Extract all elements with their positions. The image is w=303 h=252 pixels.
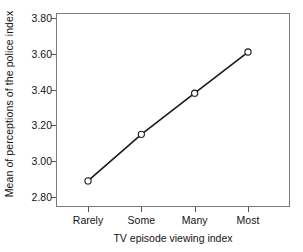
x-axis-tick-mark xyxy=(195,207,196,212)
y-axis-tick-labels: 2.803.003.203.403.603.80 xyxy=(16,0,52,252)
x-axis-tick-mark xyxy=(88,207,89,212)
series-marker xyxy=(245,49,251,55)
series-marker xyxy=(85,178,91,184)
chart-screenshot: Mean of perceptions of the police index … xyxy=(0,0,303,252)
series-marker xyxy=(192,90,198,96)
y-axis-tick-label: 3.40 xyxy=(18,84,52,95)
x-axis-tick-label: Most xyxy=(237,214,260,226)
x-axis-tick-label: Some xyxy=(128,214,155,226)
x-axis-tick-label: Many xyxy=(182,214,208,226)
plot-series-layer xyxy=(56,13,290,207)
x-axis-tick-label: Rarely xyxy=(73,214,103,226)
y-axis-tick-label: 2.80 xyxy=(18,192,52,203)
series-marker xyxy=(138,131,144,137)
y-axis-tick-label: 3.20 xyxy=(18,120,52,131)
series-line xyxy=(88,52,248,181)
x-axis-tick-mark xyxy=(141,207,142,212)
x-axis-tick-mark xyxy=(248,207,249,212)
y-axis-tick-label: 3.00 xyxy=(18,156,52,167)
y-axis-title-text: Mean of perceptions of the police index xyxy=(3,10,15,197)
y-axis-tick-label: 3.60 xyxy=(18,49,52,60)
y-axis-tick-label: 3.80 xyxy=(18,13,52,24)
x-axis-title: TV episode viewing index xyxy=(56,232,290,244)
